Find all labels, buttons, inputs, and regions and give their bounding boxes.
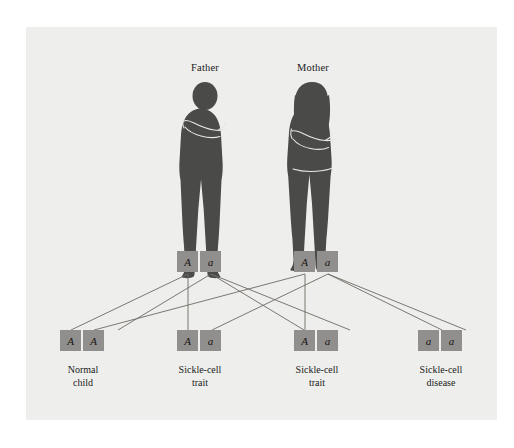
father-label: Father [180,62,230,73]
child-2-genotype: A a [177,330,221,351]
allele-box: a [418,330,439,351]
allele-box: A [60,330,81,351]
allele-box: a [200,330,221,351]
allele-box: a [317,251,338,272]
child-4-label: Sickle-cell disease [396,364,486,389]
allele-box: A [177,330,198,351]
allele-box: a [200,251,221,272]
allele-box: a [317,330,338,351]
child-3-label-line1: Sickle-cell [272,364,362,377]
child-3-label: Sickle-cell trait [272,364,362,389]
child-2-label-line2: trait [155,377,245,390]
child-1-label-line2: child [44,377,122,390]
allele-box: A [177,251,198,272]
child-2-label-line1: Sickle-cell [155,364,245,377]
child-4-genotype: a a [418,330,462,351]
child-4-label-line1: Sickle-cell [396,364,486,377]
child-4-label-line2: disease [396,377,486,390]
allele-box: A [294,330,315,351]
child-2-label: Sickle-cell trait [155,364,245,389]
father-genotype: A a [177,251,221,272]
child-3-label-line2: trait [272,377,362,390]
allele-box: A [83,330,104,351]
child-1-genotype: A A [60,330,104,351]
child-1-label: Normal child [44,364,122,389]
allele-box: a [441,330,462,351]
mother-label: Mother [287,62,339,73]
figure-panel [26,27,497,420]
mother-genotype: A a [294,251,338,272]
child-1-label-line1: Normal [44,364,122,377]
genetics-inheritance-figure: Father Mother A a A a A A [0,0,514,448]
child-3-genotype: A a [294,330,338,351]
allele-box: A [294,251,315,272]
